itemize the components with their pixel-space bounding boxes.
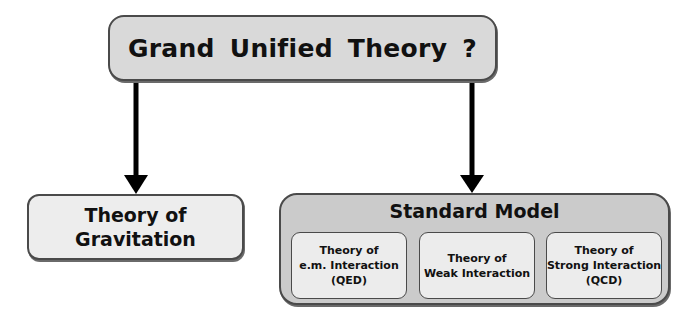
qcd-line-1: Theory of <box>547 243 661 258</box>
weak-interaction-box: Theory of Weak Interaction <box>419 232 535 299</box>
weak-line-1: Theory of <box>424 251 530 266</box>
grand-unified-theory-label: Grand Unified Theory ? <box>128 34 477 63</box>
gravitation-line-1: Theory of <box>75 203 196 227</box>
qed-line-2: e.m. Interaction <box>299 258 399 273</box>
qcd-line-2: Strong Interaction <box>547 258 661 273</box>
arrow-to-gravitation <box>124 81 148 194</box>
weak-line-2: Weak Interaction <box>424 266 530 281</box>
qed-line-1: Theory of <box>299 243 399 258</box>
standard-model-title: Standard Model <box>281 200 668 222</box>
arrow-to-standard-model <box>460 81 484 193</box>
qed-line-3: (QED) <box>299 273 399 288</box>
gravitation-box: Theory of Gravitation <box>27 194 244 260</box>
gravitation-line-2: Gravitation <box>75 227 196 251</box>
qed-box: Theory of e.m. Interaction (QED) <box>291 232 407 299</box>
standard-model-box: Standard Model Theory of e.m. Interactio… <box>279 193 670 305</box>
qcd-box: Theory of Strong Interaction (QCD) <box>546 232 662 299</box>
qcd-line-3: (QCD) <box>547 273 661 288</box>
grand-unified-theory-box: Grand Unified Theory ? <box>108 15 497 81</box>
